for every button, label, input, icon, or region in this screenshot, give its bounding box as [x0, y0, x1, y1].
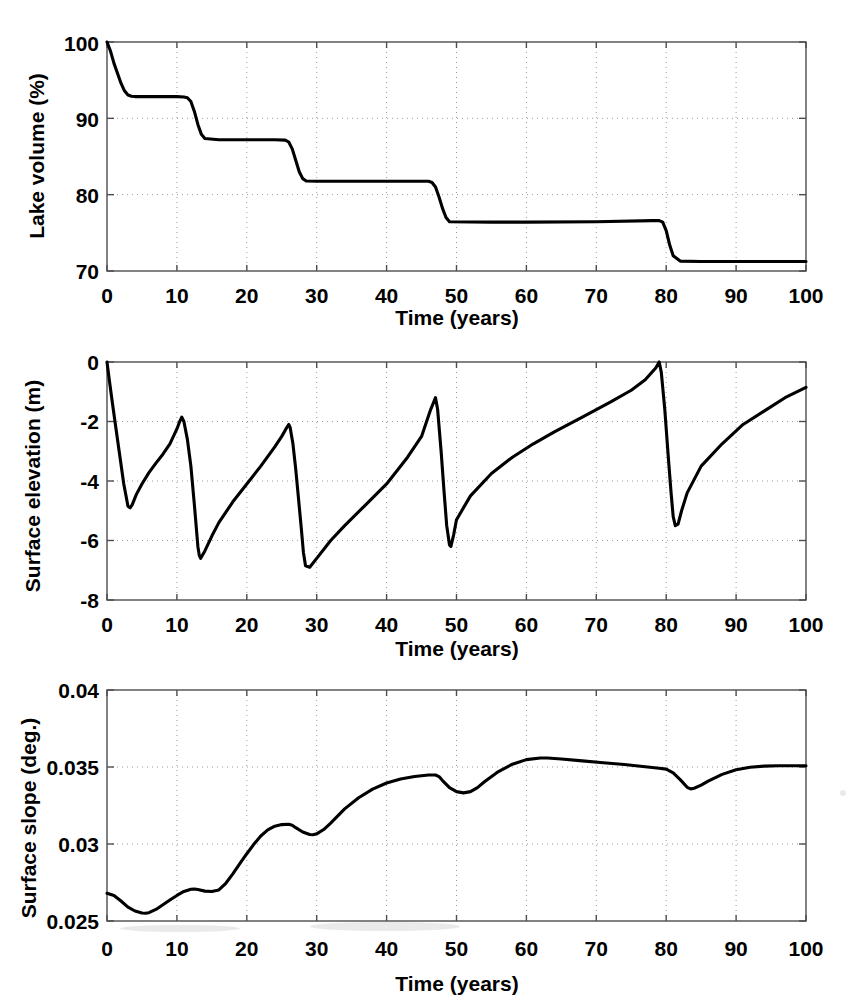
x-tick-label: 50: [445, 284, 468, 307]
y-tick-label: 0.04: [58, 679, 99, 702]
x-axis-label-1: Time (years): [395, 306, 518, 329]
x-tick-label: 50: [445, 613, 468, 636]
panel-surface-elevation: Surface elevation (m) -8 -6 -4 -2 0 0102…: [0, 334, 858, 668]
x-tick-label: 60: [515, 284, 538, 307]
y-tick-label: 0.025: [46, 910, 99, 933]
x-tick-label: 70: [585, 937, 608, 960]
y-axis-label-1: Lake volume (%): [25, 73, 48, 239]
surface-elevation-plot: Surface elevation (m) -8 -6 -4 -2 0 0102…: [0, 334, 858, 668]
x-tick-label: 20: [235, 937, 258, 960]
y-tick-label: 0.03: [58, 833, 99, 856]
x-tick-label: 60: [515, 613, 538, 636]
panel-lake-volume: Lake volume (%) 70 80 90 100 01020304050…: [0, 0, 858, 334]
x-tick-label: 10: [165, 613, 188, 636]
x-tick-label: 10: [165, 937, 188, 960]
x-tick-labels-2: 0102030405060708090100: [101, 613, 823, 636]
x-tick-label: 90: [724, 613, 747, 636]
scan-artifact: [120, 925, 240, 932]
y-tick-label: 100: [64, 32, 99, 55]
x-tick-label: 60: [515, 937, 538, 960]
scan-artifact: [840, 790, 846, 796]
lake-volume-plot: Lake volume (%) 70 80 90 100 01020304050…: [0, 0, 858, 334]
y-tick-label: -2: [80, 410, 99, 433]
y-tick-label: 70: [76, 260, 99, 283]
x-tick-label: 30: [305, 937, 328, 960]
y-tick-label: 0.035: [46, 756, 99, 779]
x-tick-label: 20: [235, 613, 258, 636]
y-tick-label: 0: [87, 351, 99, 374]
x-tick-label: 30: [305, 613, 328, 636]
x-tick-label: 0: [101, 284, 113, 307]
x-tick-label: 40: [375, 613, 398, 636]
x-tick-label: 40: [375, 937, 398, 960]
x-tick-label: 90: [724, 937, 747, 960]
y-tick-labels-2: -8 -6 -4 -2 0: [80, 351, 99, 612]
x-tick-label: 80: [655, 284, 678, 307]
surface-slope-plot: Surface slope (deg.) 0.025 0.03 0.035 0.…: [0, 668, 858, 1003]
x-tick-label: 80: [655, 937, 678, 960]
series-line-0: [107, 42, 806, 261]
plot-frame-1: [107, 42, 806, 271]
x-tick-label: 70: [585, 284, 608, 307]
y-tick-labels-1: 70 80 90 100: [64, 32, 99, 283]
x-axis-label-2: Time (years): [395, 637, 518, 660]
x-tick-label: 80: [655, 613, 678, 636]
y-tick-label: -8: [80, 589, 99, 612]
plot-frame-2: [107, 362, 806, 600]
x-tick-label: 50: [445, 937, 468, 960]
x-tick-label: 100: [788, 937, 823, 960]
x-tick-label: 10: [165, 284, 188, 307]
plot-frame-3: [107, 690, 806, 921]
y-axis-label-3: Surface slope (deg.): [17, 718, 40, 919]
x-tick-label: 30: [305, 284, 328, 307]
x-tick-label: 20: [235, 284, 258, 307]
x-tick-label: 90: [724, 284, 747, 307]
x-tick-label: 0: [101, 613, 113, 636]
x-tick-label: 0: [101, 937, 113, 960]
scan-artifact: [310, 922, 460, 931]
x-tick-labels-3: 0102030405060708090100: [101, 937, 823, 960]
y-tick-label: -4: [80, 470, 99, 493]
panel-surface-slope: Surface slope (deg.) 0.025 0.03 0.035 0.…: [0, 668, 858, 1003]
x-axis-label-3: Time (years): [395, 972, 518, 995]
y-tick-label: 80: [76, 184, 99, 207]
y-tick-labels-3: 0.025 0.03 0.035 0.04: [46, 679, 99, 933]
x-tick-label: 100: [788, 284, 823, 307]
x-tick-label: 40: [375, 284, 398, 307]
x-tick-labels-1: 0102030405060708090100: [101, 284, 823, 307]
y-tick-label: -6: [80, 529, 99, 552]
y-tick-label: 90: [76, 108, 99, 131]
y-axis-label-2: Surface elevation (m): [21, 380, 44, 592]
x-tick-label: 100: [788, 613, 823, 636]
figure-root: Lake volume (%) 70 80 90 100 01020304050…: [0, 0, 858, 1003]
x-tick-label: 70: [585, 613, 608, 636]
